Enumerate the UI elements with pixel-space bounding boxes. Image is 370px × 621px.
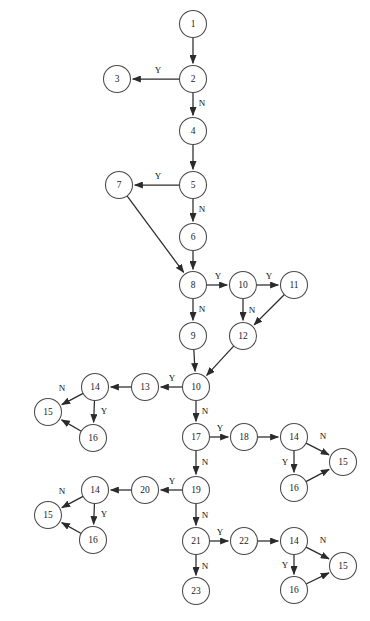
node-n15b[interactable]: 15 bbox=[330, 449, 357, 476]
node-circle-n10b[interactable] bbox=[183, 374, 210, 401]
node-circle-n15c[interactable] bbox=[35, 502, 62, 529]
node-n15c[interactable]: 15 bbox=[35, 502, 62, 529]
node-n2[interactable]: 2 bbox=[180, 66, 207, 93]
node-n4[interactable]: 4 bbox=[180, 118, 207, 145]
node-circle-n6[interactable] bbox=[180, 224, 207, 251]
node-circle-n16c[interactable] bbox=[80, 527, 107, 554]
edge-label-19-20: Y bbox=[169, 476, 176, 486]
edge-label-17-18: Y bbox=[217, 423, 224, 433]
node-circle-n1[interactable] bbox=[180, 11, 207, 38]
edge-label-10-17: N bbox=[202, 406, 209, 416]
edge-14-to-15 bbox=[306, 547, 329, 559]
node-n20[interactable]: 20 bbox=[132, 477, 159, 504]
node-circle-n10a[interactable] bbox=[230, 272, 257, 299]
edge-label-14-16: Y bbox=[101, 406, 108, 416]
node-n22[interactable]: 22 bbox=[231, 528, 258, 555]
edge-label-14-15: N bbox=[59, 486, 66, 496]
node-circle-n20[interactable] bbox=[132, 477, 159, 504]
node-n14a[interactable]: 14 bbox=[82, 374, 109, 401]
node-n10a[interactable]: 10 bbox=[230, 272, 257, 299]
node-n13[interactable]: 13 bbox=[132, 374, 159, 401]
node-n16d[interactable]: 16 bbox=[281, 577, 308, 604]
node-circle-n15a[interactable] bbox=[35, 399, 62, 426]
node-n1[interactable]: 1 bbox=[180, 11, 207, 38]
edge-label-14-16: Y bbox=[282, 560, 289, 570]
node-circle-n7[interactable] bbox=[106, 172, 133, 199]
node-n16a[interactable]: 16 bbox=[80, 425, 107, 452]
node-circle-n11[interactable] bbox=[281, 272, 308, 299]
node-circle-n3[interactable] bbox=[104, 66, 131, 93]
node-n23[interactable]: 23 bbox=[183, 578, 210, 605]
node-n5[interactable]: 5 bbox=[180, 172, 207, 199]
node-circle-n12[interactable] bbox=[230, 323, 257, 350]
node-circle-n21[interactable] bbox=[183, 528, 210, 555]
node-n7[interactable]: 7 bbox=[106, 172, 133, 199]
flowchart-svg: YNYNYNYNYNNYYNNYYNNYYNNY 123457681011912… bbox=[0, 0, 370, 621]
edge-label-2-3: Y bbox=[155, 65, 162, 75]
node-circle-n14a[interactable] bbox=[82, 374, 109, 401]
node-n9[interactable]: 9 bbox=[180, 323, 207, 350]
node-circle-n19[interactable] bbox=[183, 477, 210, 504]
edge-14-to-16 bbox=[94, 503, 95, 524]
node-circle-n4[interactable] bbox=[180, 118, 207, 145]
node-n17[interactable]: 17 bbox=[183, 424, 210, 451]
edge-label-10-13: Y bbox=[169, 373, 176, 383]
node-n18[interactable]: 18 bbox=[231, 424, 258, 451]
edge-label-14-16: Y bbox=[282, 457, 289, 467]
edge-label-14-15: N bbox=[320, 431, 327, 441]
node-circle-n23[interactable] bbox=[183, 578, 210, 605]
edge-label-10-12: N bbox=[249, 305, 256, 315]
node-circle-n14d[interactable] bbox=[281, 528, 308, 555]
node-circle-n15d[interactable] bbox=[330, 553, 357, 580]
edge-label-14-16: Y bbox=[101, 509, 108, 519]
node-circle-n16a[interactable] bbox=[80, 425, 107, 452]
edge-label-2-4: N bbox=[199, 98, 206, 108]
edge-label-5-6: N bbox=[199, 204, 206, 214]
node-n11[interactable]: 11 bbox=[281, 272, 308, 299]
node-circle-n15b[interactable] bbox=[330, 449, 357, 476]
node-n12[interactable]: 12 bbox=[230, 323, 257, 350]
node-n14c[interactable]: 14 bbox=[82, 477, 109, 504]
edge-14-to-15 bbox=[62, 496, 83, 507]
node-circle-n2[interactable] bbox=[180, 66, 207, 93]
edge-label-5-7: Y bbox=[155, 171, 162, 181]
node-circle-n22[interactable] bbox=[231, 528, 258, 555]
edge-14-to-15 bbox=[62, 393, 83, 404]
node-n14d[interactable]: 14 bbox=[281, 528, 308, 555]
edge-14-to-15 bbox=[306, 443, 329, 455]
node-n21[interactable]: 21 bbox=[183, 528, 210, 555]
flowchart-canvas: YNYNYNYNYNNYYNNYYNNYYNNY 123457681011912… bbox=[0, 0, 370, 621]
node-n16c[interactable]: 16 bbox=[80, 527, 107, 554]
node-n15a[interactable]: 15 bbox=[35, 399, 62, 426]
node-circle-n5[interactable] bbox=[180, 172, 207, 199]
node-n14b[interactable]: 14 bbox=[281, 424, 308, 451]
edge-16-to-15 bbox=[306, 469, 329, 481]
edge-16-to-15 bbox=[306, 573, 329, 584]
edge-11-to-12 bbox=[254, 295, 284, 325]
edge-label-10-11: Y bbox=[266, 271, 273, 281]
node-n6[interactable]: 6 bbox=[180, 224, 207, 251]
node-n3[interactable]: 3 bbox=[104, 66, 131, 93]
node-n10b[interactable]: 10 bbox=[183, 374, 210, 401]
edge-label-8-10: Y bbox=[215, 271, 222, 281]
node-circle-n14b[interactable] bbox=[281, 424, 308, 451]
node-circle-n9[interactable] bbox=[180, 323, 207, 350]
node-n19[interactable]: 19 bbox=[183, 477, 210, 504]
node-circle-n8[interactable] bbox=[180, 272, 207, 299]
edge-9-to-10 bbox=[194, 349, 195, 371]
node-n8[interactable]: 8 bbox=[180, 272, 207, 299]
node-circle-n16b[interactable] bbox=[281, 475, 308, 502]
node-circle-n17[interactable] bbox=[183, 424, 210, 451]
edge-label-14-15: N bbox=[59, 383, 66, 393]
node-circle-n18[interactable] bbox=[231, 424, 258, 451]
edge-label-19-21: N bbox=[202, 510, 209, 520]
edge-12-to-10 bbox=[207, 346, 234, 376]
edge-label-21-23: N bbox=[202, 561, 209, 571]
edge-label-14-15: N bbox=[320, 535, 327, 545]
node-circle-n14c[interactable] bbox=[82, 477, 109, 504]
node-circle-n13[interactable] bbox=[132, 374, 159, 401]
node-n16b[interactable]: 16 bbox=[281, 475, 308, 502]
node-circle-n16d[interactable] bbox=[281, 577, 308, 604]
edge-label-17-19: N bbox=[202, 457, 209, 467]
node-n15d[interactable]: 15 bbox=[330, 553, 357, 580]
